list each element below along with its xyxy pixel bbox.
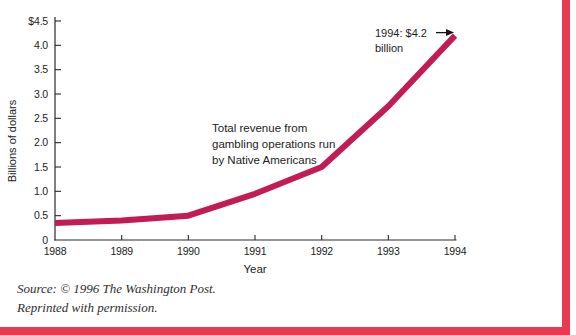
y-tick-label: 1.0	[0, 185, 48, 197]
y-tick-label: 0.5	[0, 209, 48, 221]
gambling-revenue-figure: 00.51.01.52.02.53.03.54.0$4.519881989199…	[0, 0, 576, 335]
y-axis-title: Billions of dollars	[6, 100, 18, 183]
y-tick-label: $4.5	[0, 15, 48, 27]
page-accent-border-bottom	[0, 327, 570, 335]
y-tick-label: 0	[0, 234, 48, 246]
x-tick-label: 1992	[302, 245, 342, 257]
source-line2: Reprinted with permission.	[17, 299, 216, 318]
x-tick-label: 1989	[102, 245, 142, 257]
y-tick-label: 3.5	[0, 63, 48, 75]
page-accent-border-right	[562, 0, 570, 335]
source-note: Source: © 1996 The Washington Post. Repr…	[17, 280, 216, 317]
y-tick-label: 3.0	[0, 88, 48, 100]
x-tick-label: 1991	[235, 245, 275, 257]
x-tick-label: 1993	[368, 245, 408, 257]
x-tick-label: 1988	[35, 245, 75, 257]
annotation-line2: billion	[375, 41, 427, 56]
series-label-line3: by Native Americans	[212, 152, 335, 168]
y-tick-label: 4.0	[0, 39, 48, 51]
series-label-line1: Total revenue from	[212, 120, 335, 136]
series-label-line2: gambling operations run	[212, 136, 335, 152]
source-line1: Source: © 1996 The Washington Post.	[17, 280, 216, 299]
x-tick-label: 1994	[435, 245, 475, 257]
series-label: Total revenue from gambling operations r…	[212, 120, 335, 168]
annotation-line1: 1994: $4.2	[375, 26, 427, 41]
x-axis-title: Year	[235, 263, 275, 275]
x-tick-label: 1990	[168, 245, 208, 257]
endpoint-annotation: 1994: $4.2 billion	[375, 26, 427, 55]
